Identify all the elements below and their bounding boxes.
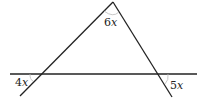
right-angle-label: 5x bbox=[170, 79, 184, 92]
diagram-svg: 6x 4x 5x bbox=[0, 0, 204, 103]
left-angle-arc bbox=[30, 74, 33, 81]
left-side-line bbox=[20, 2, 113, 96]
apex-angle-arc bbox=[104, 11, 119, 15]
right-angle-arc bbox=[165, 74, 168, 84]
apex-angle-label: 6x bbox=[104, 16, 118, 29]
triangle-angle-diagram: 6x 4x 5x bbox=[0, 0, 204, 103]
left-angle-label: 4x bbox=[15, 76, 29, 89]
right-side-line bbox=[113, 2, 172, 97]
